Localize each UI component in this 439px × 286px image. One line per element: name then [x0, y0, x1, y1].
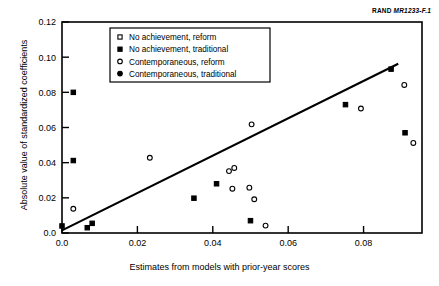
legend-label: No achievement, traditional — [129, 45, 228, 54]
legend-label: No achievement, reform — [129, 33, 217, 42]
data-point — [71, 206, 76, 211]
legend-marker — [118, 35, 122, 39]
data-point — [247, 185, 252, 190]
data-point — [359, 106, 364, 111]
x-tick-label: 0.0 — [56, 238, 69, 248]
data-point — [249, 122, 254, 127]
data-point — [60, 224, 64, 228]
y-tick-label: 0.08 — [38, 88, 56, 98]
scatter-plot: 0.00.020.040.060.080.100.12 0.00.020.040… — [0, 0, 439, 286]
x-tick-label: 0.06 — [279, 238, 297, 248]
legend-label: Contemporaneous, traditional — [129, 70, 237, 79]
data-point — [248, 218, 252, 222]
y-tick-label: 0.02 — [38, 193, 56, 203]
data-point — [192, 196, 196, 200]
data-point — [252, 197, 257, 202]
chart-legend: No achievement, reformNo achievement, tr… — [110, 28, 270, 82]
data-point — [214, 182, 218, 186]
data-point — [147, 155, 152, 160]
x-tick-label: 0.04 — [204, 238, 222, 248]
legend-marker — [118, 71, 123, 76]
y-tick-label: 0.10 — [38, 53, 56, 63]
data-point — [263, 223, 268, 228]
x-tick-label: 0.02 — [129, 238, 147, 248]
x-tick-label: 0.08 — [355, 238, 373, 248]
y-tick-label: 0.04 — [38, 158, 56, 168]
data-point — [402, 83, 407, 88]
data-point — [85, 226, 89, 230]
data-point — [232, 166, 237, 171]
data-point — [403, 131, 407, 135]
y-tick-label: 0.06 — [38, 123, 56, 133]
data-point — [389, 67, 393, 71]
y-tick-label: 0.0 — [43, 228, 56, 238]
legend-marker — [118, 47, 122, 51]
figure-container: RAND MR1233-F.1 Absolute value of standa… — [0, 0, 439, 286]
data-point — [227, 169, 232, 174]
legend-marker — [118, 59, 123, 64]
y-tick-label: 0.12 — [38, 17, 56, 27]
legend-label: Contemporaneous, reform — [129, 58, 225, 67]
data-point — [90, 221, 94, 225]
data-point — [343, 102, 347, 106]
data-point — [411, 141, 416, 146]
data-point — [71, 90, 75, 94]
data-point — [71, 158, 75, 162]
data-point — [230, 186, 235, 191]
